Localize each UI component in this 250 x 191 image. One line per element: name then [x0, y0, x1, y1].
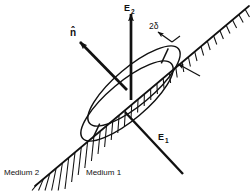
pillbox-interface-diagram: E 2 E 1 n̂ 2δ Medium 2 Medium 1 [0, 0, 250, 191]
label-medium-1: Medium 1 [86, 168, 122, 177]
figure-background [0, 0, 250, 191]
label-e2-base: E [124, 3, 130, 13]
label-thickness: 2δ [149, 21, 159, 31]
label-e2-subscript: 2 [131, 8, 135, 15]
label-e1-base: E [158, 132, 164, 142]
figure-root: E 2 E 1 n̂ 2δ Medium 2 Medium 1 [0, 0, 250, 191]
label-e1-subscript: 1 [165, 137, 169, 144]
label-normal-vector: n̂ [70, 26, 76, 38]
label-medium-2: Medium 2 [4, 168, 40, 177]
